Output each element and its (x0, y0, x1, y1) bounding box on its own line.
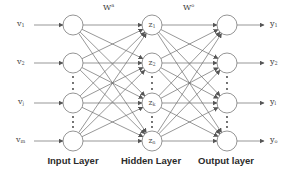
ellipsis-dot (226, 88, 228, 90)
hidden-node-label-n: zn (148, 137, 155, 145)
hidden-layer-title: Hidden Layer (121, 155, 181, 166)
output-label-l: yl (270, 98, 276, 106)
weight-label-input-hidden: Wa (103, 3, 114, 12)
ellipsis-dot (151, 82, 153, 84)
hidden-node-label-k: zk (149, 99, 156, 107)
hidden-node-label-2: z2 (148, 59, 155, 67)
connection-lines (79, 25, 222, 141)
input-label-1: v1 (17, 20, 25, 28)
input-node (63, 53, 83, 73)
ellipsis-dot (72, 116, 74, 118)
output-node (217, 131, 237, 151)
output-layer-title: Output layer (198, 155, 254, 166)
io-arrows (34, 25, 264, 141)
neural-network-diagram: Wa Wo v1 v2 vj vm z1 z2 zk zn y1 y2 yl y… (0, 0, 295, 175)
ellipsis-dot (226, 76, 228, 78)
ellipsis-dot (151, 121, 153, 123)
nodes (63, 15, 237, 151)
output-label-1: y1 (270, 20, 278, 28)
input-node (63, 15, 83, 35)
input-node (63, 131, 83, 151)
output-node (217, 15, 237, 35)
hidden-node-label-1: z1 (148, 21, 155, 29)
input-node (63, 93, 83, 113)
ellipsis-dot (72, 76, 74, 78)
ellipsis-dot (72, 88, 74, 90)
input-label-j: vj (18, 98, 24, 106)
ellipsis-dot (226, 82, 228, 84)
output-label-o: yo (270, 136, 278, 144)
output-label-2: y2 (270, 58, 278, 66)
ellipsis-dot (226, 121, 228, 123)
ellipsis-dot (151, 126, 153, 128)
ellipsis-dot (226, 126, 228, 128)
ellipsis-dot (72, 121, 74, 123)
ellipsis-dot (151, 76, 153, 78)
weight-label-hidden-output: Wo (183, 3, 194, 12)
output-node (217, 53, 237, 73)
input-label-m: vm (16, 136, 25, 144)
ellipsis-dot (151, 116, 153, 118)
input-layer-title: Input Layer (47, 155, 98, 166)
ellipsis-dot (72, 82, 74, 84)
output-node (217, 93, 237, 113)
ellipsis-dot (151, 88, 153, 90)
input-label-2: v2 (17, 58, 25, 66)
ellipsis-dot (72, 126, 74, 128)
ellipsis-dot (226, 116, 228, 118)
